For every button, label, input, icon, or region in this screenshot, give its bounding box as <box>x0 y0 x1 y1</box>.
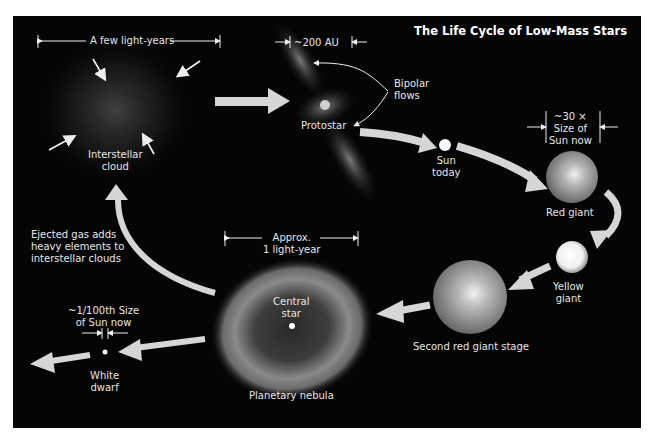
recycle-note: Ejected gas adds heavy elements to inter… <box>31 229 124 265</box>
arrow-yellow-to-second-red-giant <box>508 266 550 290</box>
bipolar-flows-label: Bipolar flows <box>394 78 429 102</box>
arrow-nebula-to-white-dwarf <box>118 339 205 361</box>
planetary-nebula-label: Planetary nebula <box>249 390 334 402</box>
arrow-red-giant-to-yellow <box>590 192 618 249</box>
arrow-protostar-to-sun <box>360 132 437 153</box>
red-giant-scale-label: ~30 × Size of Sun now <box>549 111 592 147</box>
sun-today <box>439 139 451 151</box>
cloud-label: Interstellar cloud <box>88 149 143 173</box>
central-star <box>289 323 295 329</box>
red-giant <box>546 151 598 203</box>
cloud-scale-label: A few light-years <box>90 35 174 47</box>
arrow-second-red-giant-to-nebula <box>376 300 430 323</box>
diagram-panel: The Life Cycle of Low-Mass Stars A few l… <box>13 16 641 428</box>
red-giant-label: Red giant <box>546 207 594 219</box>
arrow-sun-to-red-giant <box>457 146 548 192</box>
arrow-cloud-to-protostar <box>215 88 290 114</box>
protostar-scale-label: ~200 AU <box>294 37 339 49</box>
white-dwarf <box>103 350 108 355</box>
sun-today-label: Sun today <box>432 155 460 179</box>
white-dwarf-label: White dwarf <box>90 370 119 394</box>
nebula-scale-label: Approx. 1 light-year <box>263 232 320 256</box>
central-star-label: Central star <box>273 296 309 320</box>
protostar-label: Protostar <box>301 120 346 132</box>
white-dwarf-scale-label: ~1/100th Size of Sun now <box>68 305 139 329</box>
second-red-giant <box>433 260 507 334</box>
scale-bar-white-dwarf <box>82 328 128 339</box>
arrow-white-dwarf-out <box>30 352 90 373</box>
diagram-graphics <box>13 16 641 428</box>
diagram-title: The Life Cycle of Low-Mass Stars <box>414 24 627 38</box>
yellow-giant <box>556 241 588 273</box>
second-red-giant-label: Second red giant stage <box>413 341 529 353</box>
yellow-giant-label: Yellow giant <box>553 281 584 305</box>
